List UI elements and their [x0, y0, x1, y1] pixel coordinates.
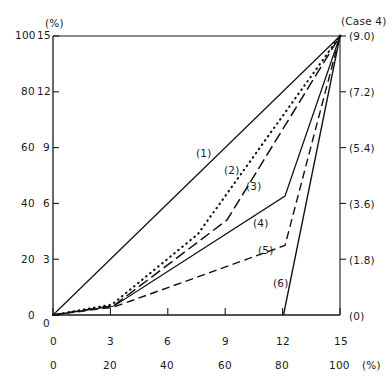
left-inner-tick-0: 0: [43, 318, 50, 329]
curve-label-1: (1): [196, 148, 211, 159]
bottom-inner-tick-9: 9: [222, 336, 229, 347]
left-inner-tick-3: 3: [43, 254, 50, 265]
left-inner-tick-15: 15: [37, 30, 51, 41]
left-inner-tick-9: 9: [43, 142, 50, 153]
bottom-outer-tick-80: 80: [275, 360, 289, 371]
bottom-inner-tick-12: 12: [276, 336, 290, 347]
right-tick-0: (0): [349, 311, 364, 322]
curve-label-6: (6): [273, 278, 288, 289]
bottom-outer-tick-100: 100: [329, 360, 350, 371]
curve-label-2: (2): [224, 165, 239, 176]
left-outer-tick-20: 20: [21, 254, 35, 265]
right-tick-3-6: (3.6): [349, 199, 375, 210]
bottom-axis-unit: (%): [362, 360, 381, 371]
chart-figure: (%) 100 80 60 40 20 0 15 12 9 6 3 0 0 3 …: [0, 0, 392, 384]
bottom-inner-tick-3: 3: [107, 336, 114, 347]
bottom-outer-tick-60: 60: [218, 360, 232, 371]
left-outer-tick-80: 80: [21, 86, 35, 97]
bottom-inner-tick-15: 15: [334, 336, 348, 347]
bottom-outer-tick-40: 40: [160, 360, 174, 371]
left-outer-tick-0: 0: [28, 310, 35, 321]
right-tick-5-4: (5.4): [349, 143, 375, 154]
curve-label-5: (5): [258, 245, 273, 256]
right-axis-ticks: [340, 36, 346, 259]
apex-marker: [338, 34, 341, 37]
left-axis-ticks: [53, 36, 59, 315]
curve-1: [53, 36, 340, 315]
curve-label-4: (4): [253, 218, 268, 229]
left-outer-tick-60: 60: [21, 142, 35, 153]
case-note-label: (Case 4): [341, 16, 387, 27]
curve-label-3: (3): [246, 181, 261, 192]
left-inner-tick-12: 12: [37, 86, 51, 97]
right-tick-9: (9.0): [349, 31, 375, 42]
bottom-outer-tick-20: 20: [103, 360, 117, 371]
bottom-inner-tick-0: 0: [50, 336, 57, 347]
bottom-inner-tick-6: 6: [164, 336, 171, 347]
left-axis-unit: (%): [45, 18, 64, 29]
right-tick-7-2: (7.2): [349, 87, 375, 98]
left-outer-tick-40: 40: [21, 198, 35, 209]
left-outer-tick-100: 100: [15, 30, 36, 41]
chart-canvas: [0, 0, 392, 384]
bottom-outer-tick-0: 0: [50, 360, 57, 371]
right-tick-1-8: (1.8): [349, 255, 375, 266]
left-inner-tick-6: 6: [43, 198, 50, 209]
